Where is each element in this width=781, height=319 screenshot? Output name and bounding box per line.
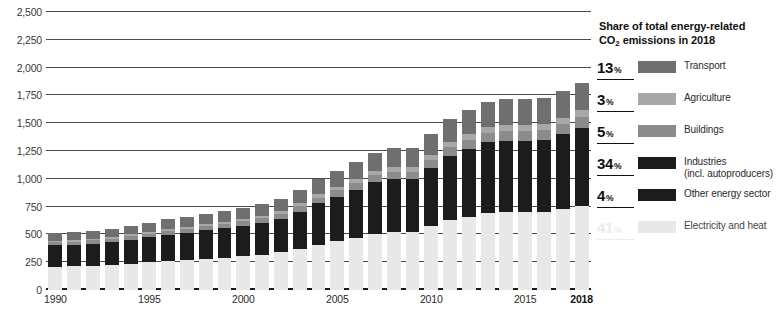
bar-2010 [424, 134, 438, 290]
bar-segment [406, 172, 420, 179]
bar-segment [142, 237, 156, 259]
legend-label: Buildings [684, 124, 724, 136]
bar-segment [424, 134, 438, 155]
legend-swatch [638, 125, 676, 137]
bar-2000 [236, 208, 250, 290]
legend-label: Industries(incl. autoproducers) [684, 156, 773, 179]
legend-item-buildings: 5%Buildings [597, 124, 781, 150]
bar-segment [274, 252, 288, 290]
bar-segment [48, 245, 62, 264]
bar-segment [180, 260, 194, 290]
bar-segment [199, 214, 213, 224]
y-axis-tick-label: 0 [0, 284, 42, 296]
bar-segment [387, 232, 401, 290]
bar-1992 [86, 231, 100, 290]
bar-segment [443, 220, 457, 290]
bar-segment [406, 179, 420, 226]
legend-swatch [638, 61, 676, 73]
bar-2004 [312, 179, 326, 290]
bar-2002 [274, 199, 288, 290]
bar-segment [387, 148, 401, 167]
bar-2003 [293, 190, 307, 290]
bar-segment [518, 141, 532, 205]
legend-title-line2-pre: CO [599, 34, 615, 46]
bar-segment [368, 182, 382, 228]
bar-segment [556, 209, 570, 290]
bar-segment [537, 130, 551, 140]
bar-segment [575, 206, 589, 291]
bar-segment [499, 131, 513, 141]
y-axis-tick-label: 1,750 [0, 89, 42, 101]
y-axis-tick-label: 1,250 [0, 145, 42, 157]
bar-segment [312, 203, 326, 240]
bar-segment [86, 266, 100, 290]
bar-segment [124, 240, 138, 261]
legend-label: Electricity and heat [684, 220, 767, 232]
bar-segment [349, 190, 363, 233]
bar-segment [312, 245, 326, 290]
bar-2005 [330, 171, 344, 290]
bar-segment [537, 204, 551, 212]
bar-segment [481, 102, 495, 127]
legend-percent: 5% [597, 124, 634, 144]
bar-segment [481, 206, 495, 213]
x-axis-tick-label-1990: 1990 [44, 293, 67, 305]
legend-label: Other energy sector [684, 188, 770, 200]
bar-2012 [462, 110, 476, 290]
bar-segment [312, 179, 326, 194]
bar-segment [330, 241, 344, 290]
bar-segment [518, 212, 532, 290]
x-axis-tick-label-2018: 2018 [570, 293, 593, 305]
legend-label: Transport [684, 60, 726, 72]
bar-segment [105, 265, 119, 290]
bar-1994 [124, 226, 138, 290]
x-axis-tick-label-2005: 2005 [326, 293, 349, 305]
y-axis-tick-label: 500 [0, 228, 42, 240]
bar-2018 [575, 83, 589, 290]
bar-segment [575, 117, 589, 128]
bar-segment [293, 212, 307, 245]
bar-segment [387, 172, 401, 179]
legend-percent: 34% [597, 156, 634, 176]
legend-item-transport: 13%Transport [597, 60, 781, 86]
bar-segment [462, 110, 476, 134]
legend-percent: 4% [597, 188, 634, 208]
bar-segment [481, 133, 495, 143]
bar-segment [499, 141, 513, 205]
bar-segment [575, 83, 589, 111]
bar-segment [556, 201, 570, 209]
bar-segment [443, 147, 457, 156]
legend-title-subscript: 2 [615, 39, 619, 48]
bar-2006 [349, 162, 363, 290]
y-axis-tick-label: 1,000 [0, 173, 42, 185]
bar-segment [161, 261, 175, 290]
bar-segment [255, 223, 269, 251]
bar-segment [199, 259, 213, 290]
bar-segment [537, 98, 551, 124]
bar-2007 [368, 153, 382, 291]
legend-swatch [638, 189, 676, 201]
legend-label: Agriculture [684, 92, 731, 104]
bar-segment [481, 213, 495, 290]
bar-1993 [105, 229, 119, 290]
bar-1991 [67, 232, 81, 290]
bar-series-container [46, 12, 591, 290]
bar-segment [368, 234, 382, 290]
bar-2008 [387, 148, 401, 290]
legend-percent: 3% [597, 92, 634, 112]
bar-segment [368, 153, 382, 171]
bar-segment [218, 228, 232, 254]
bar-segment [293, 190, 307, 203]
bar-segment [387, 179, 401, 226]
bar-segment [255, 255, 269, 290]
legend-swatch [638, 157, 676, 169]
bar-segment [443, 119, 457, 142]
bar-segment [537, 140, 551, 204]
bar-1996 [161, 219, 175, 290]
bar-segment [499, 99, 513, 125]
bar-segment [499, 205, 513, 213]
bar-segment [67, 245, 81, 264]
bar-segment [86, 244, 100, 264]
legend-swatch [638, 221, 676, 233]
bar-segment [462, 210, 476, 217]
